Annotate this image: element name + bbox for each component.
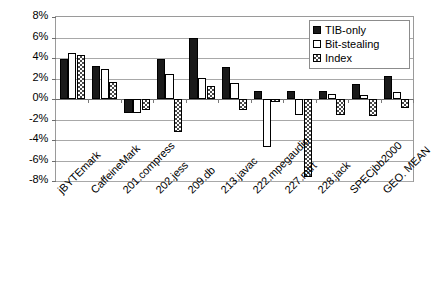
bar-bit-stealing xyxy=(101,69,109,99)
bar-tib-only xyxy=(60,59,68,99)
bar-bit-stealing xyxy=(295,99,303,115)
legend-item-tib-only: TIB-only xyxy=(313,23,406,37)
legend-item-index: Index xyxy=(313,51,406,65)
y-axis-tick-mark xyxy=(52,79,56,80)
y-axis-tick-label: -2% xyxy=(8,113,48,124)
bar-index xyxy=(109,82,117,99)
bar-bit-stealing xyxy=(133,99,141,113)
bar-bit-stealing xyxy=(328,94,336,99)
bar-tib-only xyxy=(124,99,132,113)
bar-index xyxy=(142,99,150,110)
x-axis-tick-mark xyxy=(316,99,317,103)
x-axis-tick-mark xyxy=(121,99,122,103)
bar-index xyxy=(174,99,182,132)
bar-index xyxy=(77,55,85,99)
bar-index xyxy=(271,99,279,102)
gridline xyxy=(56,79,413,80)
y-axis-tick-mark xyxy=(52,99,56,100)
y-axis-tick-mark xyxy=(52,181,56,182)
bar-bit-stealing xyxy=(230,83,238,99)
legend-swatch-icon xyxy=(313,26,321,34)
y-axis-tick-label: -8% xyxy=(8,174,48,185)
chart-legend: TIB-onlyBit-stealingIndex xyxy=(309,20,410,69)
bar-tib-only xyxy=(222,67,230,99)
bar-bit-stealing xyxy=(360,95,368,99)
y-axis-tick-label: 2% xyxy=(8,72,48,83)
x-axis-tick-mark xyxy=(218,99,219,103)
y-axis-tick-mark xyxy=(52,140,56,141)
bar-tib-only xyxy=(352,84,360,99)
x-axis-tick-mark xyxy=(153,99,154,103)
bar-bit-stealing xyxy=(68,53,76,99)
y-axis-tick-label: 0% xyxy=(8,92,48,103)
bar-bit-stealing xyxy=(393,92,401,99)
y-axis-tick-mark xyxy=(52,58,56,59)
y-axis-tick-mark xyxy=(52,17,56,18)
x-axis-tick-mark xyxy=(348,99,349,103)
y-axis-tick-label: -4% xyxy=(8,133,48,144)
y-axis-tick-mark xyxy=(52,38,56,39)
y-axis-tick-label: 4% xyxy=(8,51,48,62)
x-axis-tick-mark xyxy=(413,99,414,103)
x-axis-tick-mark xyxy=(186,99,187,103)
bar-index xyxy=(401,99,409,108)
legend-item-label: TIB-only xyxy=(325,25,366,36)
bar-tib-only xyxy=(384,76,392,99)
y-axis-tick-label: 6% xyxy=(8,31,48,42)
bar-tib-only xyxy=(287,91,295,99)
bar-tib-only xyxy=(189,38,197,99)
x-axis-tick-mark xyxy=(381,99,382,103)
gridline xyxy=(56,140,413,141)
y-axis-tick-mark xyxy=(52,120,56,121)
gridline xyxy=(56,120,413,121)
y-axis-tick-mark xyxy=(52,161,56,162)
x-axis-tick-mark xyxy=(88,99,89,103)
y-axis-tick-label: -6% xyxy=(8,154,48,165)
bar-index xyxy=(207,86,215,99)
legend-item-label: Bit-stealing xyxy=(325,39,379,50)
bar-tib-only xyxy=(254,91,262,99)
bar-tib-only xyxy=(92,66,100,99)
bar-bit-stealing xyxy=(198,78,206,99)
legend-item-bit-stealing: Bit-stealing xyxy=(313,37,406,51)
bar-bit-stealing xyxy=(165,74,173,99)
legend-swatch-icon xyxy=(313,54,321,62)
bar-index xyxy=(239,99,247,110)
bar-index xyxy=(369,99,377,116)
legend-item-label: Index xyxy=(325,53,352,64)
x-axis-tick-mark xyxy=(251,99,252,103)
y-axis-tick-label: 8% xyxy=(8,10,48,21)
gridline xyxy=(56,99,413,100)
legend-swatch-icon xyxy=(313,40,321,48)
gridline xyxy=(56,161,413,162)
bar-index xyxy=(336,99,344,115)
bar-tib-only xyxy=(319,91,327,99)
bar-tib-only xyxy=(157,59,165,99)
x-axis-tick-mark xyxy=(283,99,284,103)
bar-bit-stealing xyxy=(263,99,271,147)
